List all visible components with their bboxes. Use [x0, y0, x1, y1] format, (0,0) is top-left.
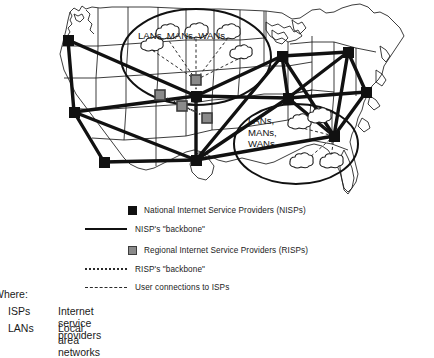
glossary-term-lans: LANs	[8, 322, 34, 334]
east-callout-label: LANs,MANs,WANs	[248, 115, 277, 150]
cloud-east-4	[320, 153, 343, 168]
nisp-node-northwest	[63, 35, 74, 46]
solid-line-icon	[84, 228, 128, 230]
glossary-definition-lans: Local area networks	[58, 322, 100, 358]
nisp-node-northeast	[343, 47, 354, 58]
nisp-node-southeast-hub	[329, 131, 340, 142]
glossary-heading: Where:	[0, 288, 28, 300]
legend-item-nisp-backbone: NISP's "backbone"	[84, 221, 205, 237]
west-callout-label: LANs, MANs, WANs	[138, 30, 225, 42]
dotted-line-icon	[84, 268, 128, 270]
nisp-node-mid-atlantic	[283, 93, 294, 104]
cloud-east-2	[308, 108, 331, 123]
legend-item-nisp: National Internet Service Providers (NIS…	[128, 202, 306, 218]
glossary-term-isps: ISPs	[8, 305, 30, 317]
legend-item-user-connections: User connections to ISPs	[84, 279, 229, 295]
nisp-node-central	[191, 91, 202, 102]
cloud-east-3	[290, 153, 313, 168]
nisp-backbone-links	[68, 40, 366, 162]
nisp-node-west	[69, 107, 80, 118]
legend-label-nisp: National Internet Service Providers (NIS…	[144, 206, 306, 215]
risp-node	[155, 90, 165, 100]
risp-node	[177, 101, 187, 111]
cloud-lan-5	[230, 45, 252, 59]
dashed-line-icon	[84, 287, 128, 288]
legend-label-user-connections: User connections to ISPs	[135, 283, 229, 292]
nisp-node-east	[361, 87, 372, 98]
legend-item-risp: Regional Internet Service Providers (RIS…	[128, 242, 308, 258]
risp-node-west-hub	[191, 75, 201, 85]
nisp-node-midwest	[277, 51, 288, 62]
nisp-node-southwest	[99, 157, 110, 168]
legend-label-nisp-backbone: NISP's "backbone"	[135, 225, 205, 234]
nisp-node-south-central	[191, 155, 202, 166]
legend-label-risp: Regional Internet Service Providers (RIS…	[144, 246, 308, 255]
risp-node	[202, 113, 212, 123]
legend-item-risp-backbone: RISP's "backbone"	[84, 261, 205, 277]
risp-square-icon	[128, 246, 137, 255]
nisp-square-icon	[128, 206, 137, 215]
legend: National Internet Service Providers (NIS…	[0, 198, 434, 286]
legend-label-risp-backbone: RISP's "backbone"	[135, 265, 205, 274]
